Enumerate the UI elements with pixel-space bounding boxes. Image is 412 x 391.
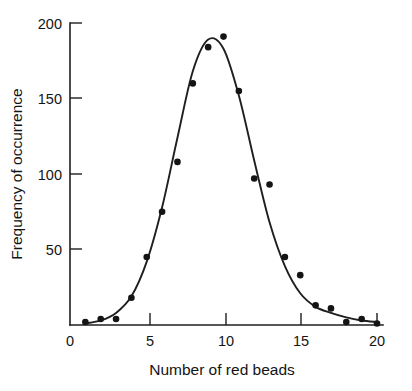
data-point xyxy=(282,254,289,261)
data-point xyxy=(143,254,150,261)
x-tick-label-10: 10 xyxy=(218,333,234,349)
data-point xyxy=(220,33,227,40)
data-point xyxy=(297,272,304,279)
data-point xyxy=(174,159,181,166)
data-points xyxy=(82,33,380,327)
x-tick-label-5: 5 xyxy=(146,333,154,349)
data-point xyxy=(82,319,89,326)
data-point xyxy=(113,316,120,323)
data-point xyxy=(128,295,135,302)
data-point xyxy=(358,316,365,323)
y-tick-label-100: 100 xyxy=(38,167,62,183)
y-axis-ticks xyxy=(70,23,82,249)
data-point xyxy=(266,181,273,188)
data-point xyxy=(328,305,335,312)
data-point xyxy=(343,319,350,326)
data-point xyxy=(190,80,197,87)
fitted-curve xyxy=(85,38,377,323)
x-tick-label-15: 15 xyxy=(293,333,309,349)
data-point xyxy=(251,175,258,182)
x-tick-label-0: 0 xyxy=(66,333,74,349)
chart-figure: 200 150 100 50 0 5 10 15 20 Number of re… xyxy=(0,0,412,391)
data-point xyxy=(236,88,243,95)
y-tick-label-200: 200 xyxy=(38,16,62,32)
data-point xyxy=(97,316,104,323)
scatter-plot: 200 150 100 50 0 5 10 15 20 Number of re… xyxy=(0,0,412,391)
y-tick-label-50: 50 xyxy=(46,242,62,258)
y-tick-label-150: 150 xyxy=(38,91,62,107)
data-point xyxy=(374,320,381,327)
x-tick-label-20: 20 xyxy=(369,333,385,349)
x-axis-ticks xyxy=(150,313,377,325)
y-axis-title: Frequency of occurrence xyxy=(8,88,25,259)
data-point xyxy=(159,208,166,215)
data-point xyxy=(312,302,319,309)
data-point xyxy=(205,44,212,51)
x-axis-title: Number of red beads xyxy=(149,361,295,378)
